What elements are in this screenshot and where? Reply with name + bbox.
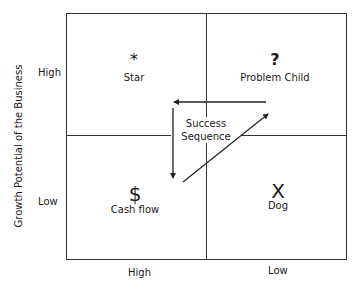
success-sequence-arrows: [0, 0, 361, 291]
arrow-diagonal: [183, 114, 268, 182]
